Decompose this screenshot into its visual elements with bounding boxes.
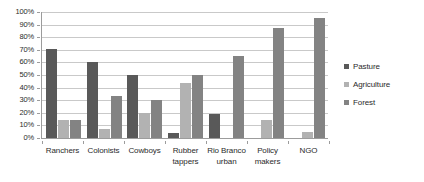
x-tick-label: NGO [288, 141, 329, 179]
bar-slot [192, 12, 203, 138]
bar-slot [302, 12, 313, 138]
bar-slot [127, 12, 138, 138]
x-tick-mark [124, 141, 125, 144]
x-tick-mark [42, 141, 43, 144]
bar-forest-ngo[interactable] [314, 18, 325, 138]
x-tick-mark [288, 141, 289, 144]
bar-slot [46, 12, 57, 138]
bar-slot [249, 12, 260, 138]
x-tick-mark [83, 141, 84, 144]
y-tick-label: 20% [20, 109, 34, 117]
y-tick-label: 10% [20, 121, 34, 129]
bar-groups [43, 12, 328, 138]
y-tick-label: 90% [20, 21, 34, 29]
bar-pasture-ranchers[interactable] [46, 49, 57, 138]
bar-slot [261, 12, 272, 138]
bar-group [165, 12, 206, 138]
y-tick-mark [37, 125, 40, 126]
bar-slot [233, 12, 244, 138]
y-tick-mark [37, 50, 40, 51]
y-tick-label: 100% [16, 8, 34, 16]
bar-slot [168, 12, 179, 138]
bar-slot [58, 12, 69, 138]
y-tick-label: 0% [24, 134, 34, 142]
legend-swatch-icon [344, 82, 349, 87]
y-tick-label: 70% [20, 46, 34, 54]
bar-group [124, 12, 165, 138]
bar-pasture-colonists[interactable] [87, 62, 98, 138]
legend-label: Forest [353, 98, 375, 107]
bar-forest-policy-makers[interactable] [273, 28, 284, 138]
bar-agriculture-ranchers[interactable] [58, 120, 69, 138]
bar-agriculture-colonists[interactable] [99, 129, 110, 138]
bar-slot [99, 12, 110, 138]
bar-forest-rubber-tappers[interactable] [192, 75, 203, 138]
y-tick-label: 60% [20, 58, 34, 66]
x-tick-label: Ranchers [42, 141, 83, 179]
x-tick-mark [247, 141, 248, 144]
y-tick-label: 40% [20, 84, 34, 92]
legend-item-pasture[interactable]: Pasture [344, 62, 424, 71]
legend-label: Agriculture [353, 80, 390, 89]
y-axis: 0%10%20%30%40%50%60%70%80%90%100% [0, 12, 37, 139]
bar-agriculture-ngo[interactable] [302, 132, 313, 138]
bar-slot [151, 12, 162, 138]
legend-swatch-icon [344, 64, 349, 69]
bar-agriculture-cowboys[interactable] [139, 113, 150, 138]
legend-item-forest[interactable]: Forest [344, 98, 424, 107]
x-tick-label: Cowboys [124, 141, 165, 179]
bar-slot [314, 12, 325, 138]
bar-group [84, 12, 125, 138]
x-tick-mark [206, 141, 207, 144]
legend-swatch-icon [344, 100, 349, 105]
y-tick-label: 50% [20, 71, 34, 79]
bar-slot [70, 12, 81, 138]
bar-pasture-rubber-tappers[interactable] [168, 133, 179, 138]
chart-legend: PastureAgricultureForest [344, 62, 424, 116]
x-tick-label: Colonists [83, 141, 124, 179]
x-tick-label: Rubbertappers [165, 141, 206, 179]
bar-forest-cowboys[interactable] [151, 100, 162, 138]
bar-forest-colonists[interactable] [111, 96, 122, 138]
bar-pasture-rio-branco-urban[interactable] [209, 114, 220, 138]
x-axis: RanchersColonistsCowboysRubbertappersRio… [42, 141, 329, 179]
y-tick-mark [37, 138, 40, 139]
bar-group [247, 12, 288, 138]
y-tick-mark [37, 25, 40, 26]
bar-agriculture-policy-makers[interactable] [261, 120, 272, 138]
bar-agriculture-rubber-tappers[interactable] [180, 83, 191, 138]
x-tick-label: Policymakers [247, 141, 288, 179]
legend-item-agriculture[interactable]: Agriculture [344, 80, 424, 89]
bar-slot [87, 12, 98, 138]
bar-pasture-cowboys[interactable] [127, 75, 138, 138]
bar-forest-rio-branco-urban[interactable] [233, 56, 244, 138]
legend-label: Pasture [353, 62, 380, 71]
y-tick-mark [37, 75, 40, 76]
y-tick-mark [37, 113, 40, 114]
bar-slot [273, 12, 284, 138]
y-tick-mark [37, 37, 40, 38]
y-tick-mark [37, 12, 40, 13]
bar-slot [290, 12, 301, 138]
bar-group [287, 12, 328, 138]
bar-slot [111, 12, 122, 138]
y-tick-label: 30% [20, 96, 34, 104]
bar-forest-ranchers[interactable] [70, 120, 81, 138]
bar-slot [209, 12, 220, 138]
y-tick-mark [37, 100, 40, 101]
bar-slot [139, 12, 150, 138]
bar-group [43, 12, 84, 138]
bar-slot [221, 12, 232, 138]
plot-area [41, 12, 328, 139]
x-tick-mark [329, 141, 330, 144]
bar-chart: 0%10%20%30%40%50%60%70%80%90%100% Ranche… [0, 0, 424, 182]
x-tick-label: Rio Brancourban [206, 141, 247, 179]
y-tick-mark [37, 88, 40, 89]
x-tick-mark [165, 141, 166, 144]
y-tick-mark [37, 62, 40, 63]
bar-slot [180, 12, 191, 138]
y-tick-label: 80% [20, 33, 34, 41]
bar-group [206, 12, 247, 138]
